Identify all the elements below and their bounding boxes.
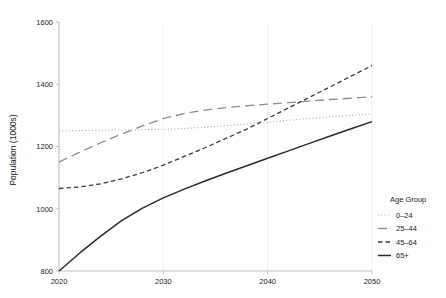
x-tick-label: 2040 bbox=[259, 277, 276, 286]
series-line-024 bbox=[59, 114, 372, 131]
y-tick-label: 800 bbox=[40, 267, 53, 276]
population-projection-chart: 80010001200140016002020203020402050 Popu… bbox=[0, 0, 446, 298]
series-line-4564 bbox=[59, 66, 372, 189]
y-tick-label: 1600 bbox=[36, 18, 53, 27]
legend-label-4564: 45–64 bbox=[396, 238, 417, 247]
y-tick-label: 1200 bbox=[36, 142, 53, 151]
x-tick-label: 2050 bbox=[364, 277, 381, 286]
data-series bbox=[59, 66, 372, 271]
legend: Age Group 0–2425–4445–6465+ bbox=[378, 195, 426, 260]
y-tick-label: 1000 bbox=[36, 205, 53, 214]
x-tick-label: 2020 bbox=[51, 277, 68, 286]
y-axis-label: Population (1000s) bbox=[8, 114, 18, 186]
legend-label-2544: 25–44 bbox=[396, 224, 417, 233]
chart-svg: 80010001200140016002020203020402050 Popu… bbox=[0, 0, 446, 298]
legend-title: Age Group bbox=[390, 195, 426, 204]
series-line-2544 bbox=[59, 97, 372, 162]
x-tick-label: 2030 bbox=[155, 277, 172, 286]
series-line-65+ bbox=[59, 122, 372, 271]
y-tick-label: 1400 bbox=[36, 80, 53, 89]
gridlines bbox=[59, 22, 372, 271]
axes bbox=[56, 22, 372, 274]
legend-label-024: 0–24 bbox=[396, 211, 413, 220]
legend-label-65+: 65+ bbox=[396, 251, 409, 260]
